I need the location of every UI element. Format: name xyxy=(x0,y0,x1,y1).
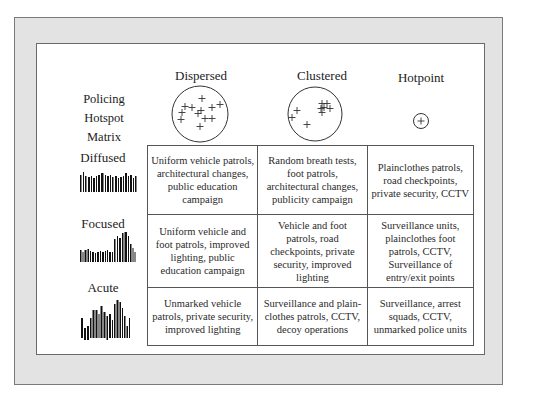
acute-bar-pattern-icon xyxy=(80,296,142,342)
matrix-title-line-1: Policing xyxy=(68,90,140,109)
focused-bar-pattern-icon xyxy=(80,230,142,262)
matrix-title: Policing Hotspot Matrix xyxy=(68,90,140,147)
table-row-acute: Unmarked vehicle patrols, private securi… xyxy=(148,288,474,346)
cell-acute-clustered: Surveillance and plain-clothes patrols, … xyxy=(258,288,367,346)
cell-diffused-clustered: Random breath tests, foot patrols, archi… xyxy=(258,146,367,215)
matrix-title-line-2: Hotspot xyxy=(68,109,140,128)
cell-focused-hotpoint: Surveillance units, plainclothes foot pa… xyxy=(367,215,473,288)
clustered-points-circle-icon xyxy=(284,83,346,145)
cell-focused-dispersed: Uniform vehicle and foot patrols, improv… xyxy=(148,215,258,288)
cell-focused-clustered: Vehicle and foot patrols, road checkpoin… xyxy=(258,215,367,288)
single-point-circle-icon xyxy=(412,112,430,130)
row-label-acute: Acute xyxy=(58,280,148,296)
row-label-diffused: Diffused xyxy=(58,150,148,166)
matrix-title-line-3: Matrix xyxy=(68,128,140,147)
column-header-hotpoint: Hotpoint xyxy=(366,70,476,86)
cell-acute-hotpoint: Surveillance, arrest squads, CCTV, unmar… xyxy=(367,288,473,346)
cell-diffused-dispersed: Uniform vehicle patrols, architectural c… xyxy=(148,146,258,215)
dispersed-points-circle-icon xyxy=(168,82,232,146)
table-row-diffused: Uniform vehicle patrols, architectural c… xyxy=(148,146,474,215)
table-row-focused: Uniform vehicle and foot patrols, improv… xyxy=(148,215,474,288)
cell-acute-dispersed: Unmarked vehicle patrols, private securi… xyxy=(148,288,258,346)
diffused-bar-pattern-icon xyxy=(80,170,142,192)
column-header-clustered: Clustered xyxy=(267,68,377,84)
policing-matrix-table: Uniform vehicle patrols, architectural c… xyxy=(147,145,474,346)
cell-diffused-hotpoint: Plainclothes patrols, road checkpoints, … xyxy=(367,146,473,215)
